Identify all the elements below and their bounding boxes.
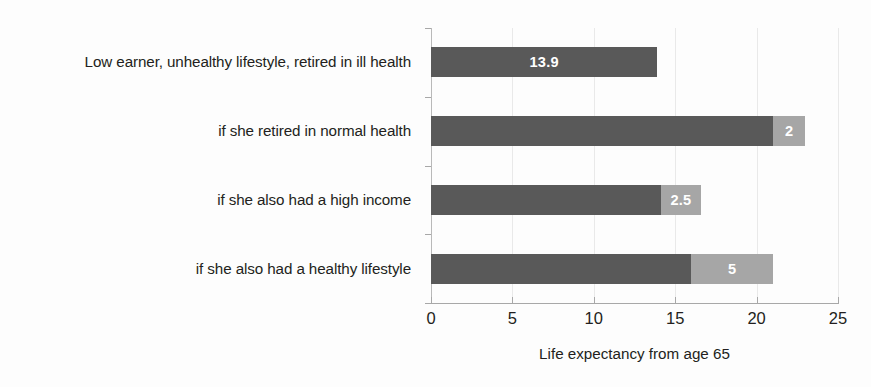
y-axis-tick <box>425 166 431 167</box>
category-axis-labels: Low earner, unhealthy lifestyle, retired… <box>0 28 421 303</box>
x-axis-tick <box>594 297 595 304</box>
x-axis-tick-label: 20 <box>737 309 777 328</box>
bar-value-label: 2.5 <box>670 192 691 208</box>
category-label: if she also had a healthy lifestyle <box>0 260 411 277</box>
x-axis-line <box>425 303 839 304</box>
bar-value-label: 2 <box>785 123 793 139</box>
x-axis-tick-label: 10 <box>574 309 614 328</box>
category-label: Low earner, unhealthy lifestyle, retired… <box>0 53 411 70</box>
x-axis-tick <box>431 297 432 304</box>
bar-segment-base <box>431 116 773 146</box>
bar-segment-base <box>431 254 691 284</box>
bar-value-label: 13.9 <box>530 54 559 70</box>
bar-segment-base <box>431 185 661 215</box>
bar-segment-increment: 2 <box>773 116 806 146</box>
x-axis-tick <box>757 297 758 304</box>
bar-chart: Low earner, unhealthy lifestyle, retired… <box>0 0 871 387</box>
y-axis-tick <box>425 303 431 304</box>
x-axis-tick <box>838 297 839 304</box>
y-axis-tick <box>425 234 431 235</box>
x-axis-tick-label: 5 <box>492 309 532 328</box>
x-axis-title: Life expectancy from age 65 <box>431 345 838 362</box>
bar-segment-base: 13.9 <box>431 47 657 77</box>
x-axis-tick <box>512 297 513 304</box>
x-axis-tick-labels: 0510152025 <box>431 309 838 333</box>
plot-area: 13.922.55 <box>431 28 838 303</box>
x-axis-tick-label: 25 <box>818 309 858 328</box>
y-axis-tick <box>425 97 431 98</box>
y-axis-tick <box>425 28 431 29</box>
bar-value-label: 5 <box>728 261 736 277</box>
x-axis-tick <box>675 297 676 304</box>
category-label: if she retired in normal health <box>0 122 411 139</box>
gridline <box>838 28 839 303</box>
x-axis-tick-label: 15 <box>655 309 695 328</box>
category-label: if she also had a high income <box>0 191 411 208</box>
bar-segment-increment: 2.5 <box>661 185 702 215</box>
bar-segment-increment: 5 <box>691 254 772 284</box>
x-axis-tick-label: 0 <box>411 309 451 328</box>
